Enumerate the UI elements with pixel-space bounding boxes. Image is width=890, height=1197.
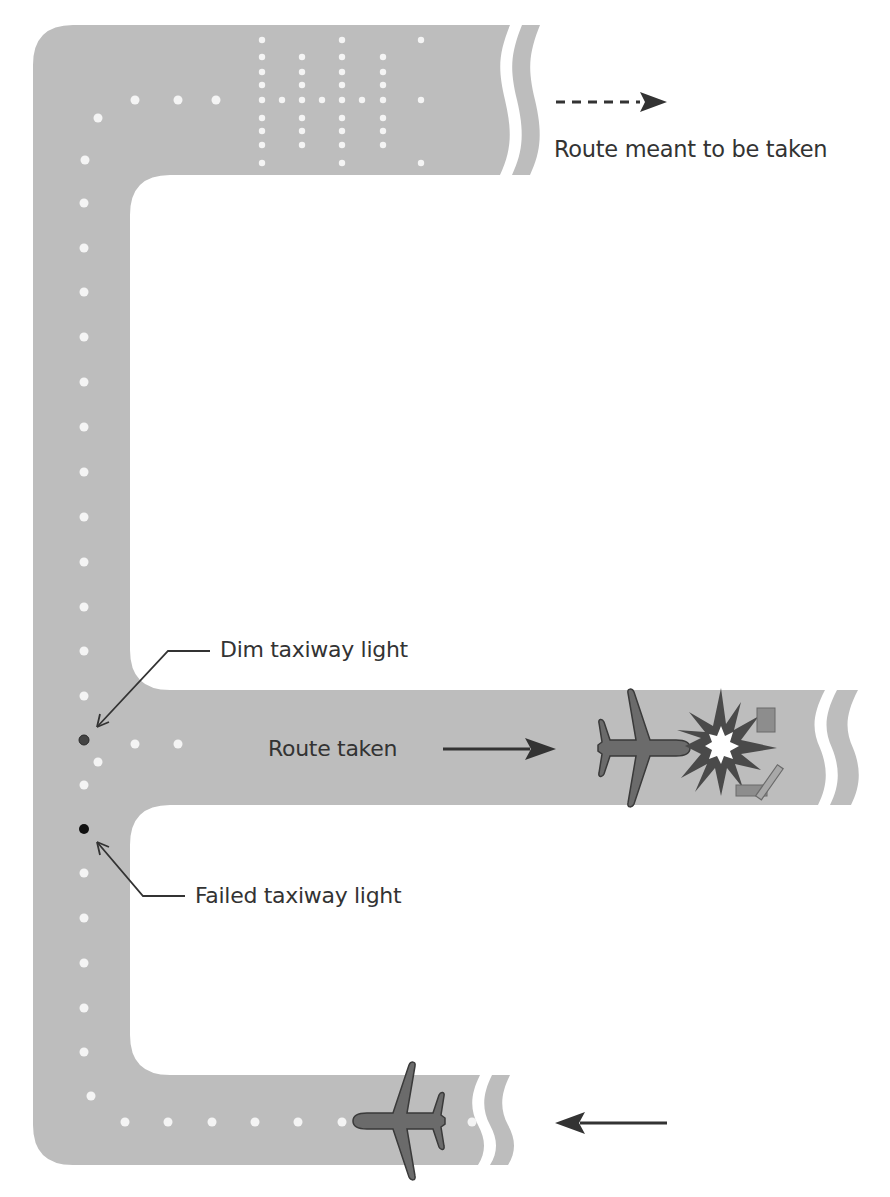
taxiway-lights xyxy=(80,96,477,1127)
taxiway-light xyxy=(80,244,89,253)
taxiway-light xyxy=(174,740,183,749)
incoming-aircraft-arrow xyxy=(555,1112,667,1134)
taxiway-light xyxy=(80,288,89,297)
taxiway-light xyxy=(251,1118,260,1127)
taxiway-light xyxy=(80,558,89,567)
taxiway-light xyxy=(80,603,89,612)
taxiway-light xyxy=(80,423,89,432)
taxiway-light xyxy=(80,468,89,477)
taxiway-light xyxy=(80,647,89,656)
failed-taxiway-light xyxy=(79,824,89,834)
taxiway-light xyxy=(80,692,89,701)
taxiway-break-strip-bottom xyxy=(484,1075,514,1165)
threshold-column xyxy=(339,37,345,166)
main-taxiway-surface xyxy=(33,25,826,1165)
runway-break-strip-top xyxy=(512,25,540,175)
dim-taxiway-light-label: Dim taxiway light xyxy=(220,637,408,662)
taxiway-light xyxy=(80,333,89,342)
taxiway-light xyxy=(81,156,90,165)
taxiway-light xyxy=(80,378,89,387)
taxiway-light xyxy=(80,781,89,790)
taxiway-light xyxy=(80,869,89,878)
taxiway-light xyxy=(208,1118,217,1127)
taxiway-light xyxy=(212,96,221,105)
taxiway-light xyxy=(94,758,103,767)
taxiway-break-strip-middle xyxy=(827,690,859,805)
taxiway-light xyxy=(87,1092,96,1101)
taxiway-light xyxy=(131,740,140,749)
threshold-column xyxy=(259,37,265,166)
taxiway-light xyxy=(80,1004,89,1013)
taxiway-light xyxy=(121,1118,130,1127)
taxiway-diagram xyxy=(0,0,890,1197)
legend-route-meant-label: Route meant to be taken xyxy=(554,136,827,162)
taxiway-light xyxy=(80,513,89,522)
pavement xyxy=(33,25,859,1165)
taxiway-light xyxy=(80,1048,89,1057)
taxiway-light xyxy=(468,1118,477,1127)
taxiway-light xyxy=(294,1118,303,1127)
route-taken-label: Route taken xyxy=(268,736,397,761)
taxiway-light xyxy=(131,96,140,105)
debris-piece xyxy=(757,708,775,732)
dim-taxiway-light xyxy=(79,735,89,745)
legend-dashed-arrow xyxy=(556,92,667,112)
failed-taxiway-light-label: Failed taxiway light xyxy=(195,883,401,908)
taxiway-light xyxy=(80,914,89,923)
taxiway-light xyxy=(94,114,103,123)
taxiway-light xyxy=(164,1118,173,1127)
taxiway-light xyxy=(338,1118,347,1127)
taxiway-light xyxy=(80,959,89,968)
taxiway-light xyxy=(174,96,183,105)
taxiway-light xyxy=(80,199,89,208)
